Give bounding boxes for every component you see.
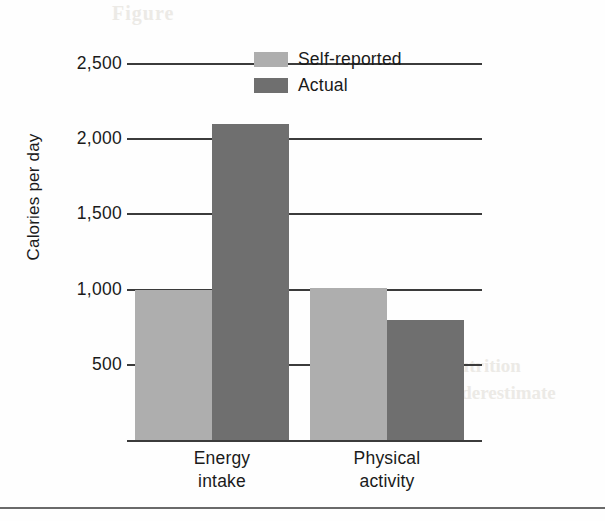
bar-energy-intake-actual: [212, 124, 289, 440]
category-label-line2: intake: [132, 470, 312, 493]
bar-energy-intake-self-reported: [135, 290, 212, 440]
category-label-line1: Energy: [132, 447, 312, 470]
legend-label: Self-reported: [298, 46, 402, 72]
bottom-divider-rule: [0, 507, 605, 509]
legend-item-actual: Actual: [254, 72, 402, 98]
legend-item-self-reported: Self-reported: [254, 46, 402, 72]
category-label-line1: Physical: [297, 447, 477, 470]
legend-swatch-icon-1: [254, 78, 288, 93]
x-axis-line: [127, 440, 482, 442]
x-axis-category-label-0: Energy intake: [132, 447, 312, 493]
bar-physical-activity-self-reported: [310, 288, 387, 440]
chart-figure: Figure nutrition underestimate Calories …: [0, 0, 605, 521]
legend-swatch-icon-0: [254, 52, 288, 67]
category-label-line2: activity: [297, 470, 477, 493]
plot-area: Calories per day 2,5002,0001,5001,000500…: [0, 0, 605, 460]
x-axis-category-label-1: Physical activity: [297, 447, 477, 493]
bar-physical-activity-actual: [387, 320, 464, 440]
legend-label: Actual: [298, 72, 348, 98]
chart-legend: Self-reportedActual: [254, 46, 402, 98]
